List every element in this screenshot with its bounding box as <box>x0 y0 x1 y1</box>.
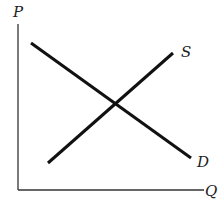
x-axis-label: Q <box>205 182 217 200</box>
y-axis-label: P <box>12 3 24 21</box>
supply-label: S <box>181 43 191 61</box>
demand-label: D <box>196 153 209 171</box>
supply-demand-diagram: P Q S D <box>0 0 224 203</box>
